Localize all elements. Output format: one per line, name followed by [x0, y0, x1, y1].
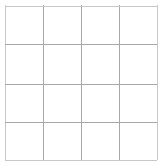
- grid-cell[interactable]: [119, 44, 157, 84]
- grid-cell[interactable]: [81, 122, 119, 160]
- grid-line-horizontal: [5, 122, 157, 123]
- grid-border-vertical: [5, 5, 6, 160]
- grid-cell[interactable]: [81, 84, 119, 122]
- grid-border-vertical: [157, 5, 158, 160]
- grid-line-vertical: [119, 5, 120, 160]
- grid-cell[interactable]: [43, 122, 81, 160]
- grid-line-vertical: [43, 5, 44, 160]
- grid-line-vertical: [81, 5, 82, 160]
- grid-cell[interactable]: [43, 44, 81, 84]
- grid-line-horizontal: [5, 44, 157, 45]
- grid-cell[interactable]: [119, 84, 157, 122]
- grid: [5, 5, 157, 160]
- grid-cell[interactable]: [119, 122, 157, 160]
- grid-cell[interactable]: [81, 6, 119, 45]
- grid-cell[interactable]: [81, 44, 119, 84]
- grid-cell[interactable]: [5, 122, 43, 160]
- grid-border-horizontal: [5, 6, 157, 7]
- grid-cell[interactable]: [5, 6, 43, 45]
- grid-line-horizontal: [5, 84, 157, 85]
- grid-border-horizontal: [5, 160, 157, 161]
- grid-cell[interactable]: [119, 6, 157, 45]
- grid-cell[interactable]: [43, 6, 81, 45]
- canvas: [0, 0, 161, 165]
- grid-cell[interactable]: [5, 44, 43, 84]
- grid-cell[interactable]: [5, 84, 43, 122]
- grid-cell[interactable]: [43, 84, 81, 122]
